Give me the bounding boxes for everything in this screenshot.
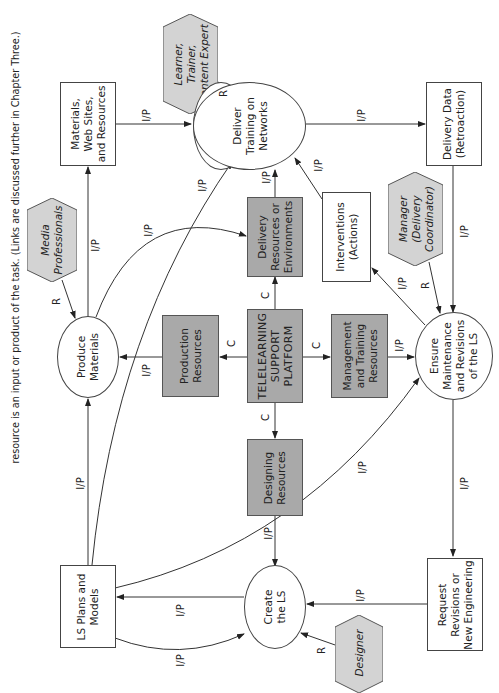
node-text: LS Plans and bbox=[75, 573, 88, 640]
interventions-box: Interventions(Actions) bbox=[322, 192, 371, 282]
link-label-ip: I/P bbox=[175, 654, 186, 666]
telelearning-support-platform-box: TELELEARNINGSUPPORTPLATFORM bbox=[247, 309, 303, 403]
node-text: Web Sites, bbox=[82, 86, 95, 163]
link-label-r: R bbox=[218, 90, 229, 97]
production-resources-box: ProductionResources bbox=[162, 315, 219, 397]
management-training-resources-box: Managementand TrainingResources bbox=[331, 314, 388, 398]
node-text: Models bbox=[88, 573, 101, 640]
delivery-resources-box: DeliveryResources orEnvironments bbox=[247, 197, 303, 277]
link-label-c: C bbox=[260, 292, 271, 299]
link-label-ip: I/P bbox=[356, 109, 367, 121]
designing-resources-box: DesigningResources bbox=[247, 439, 303, 516]
node-text: Resources or bbox=[269, 201, 282, 274]
link-label-ip: I/P bbox=[459, 477, 470, 489]
node-text: Environments bbox=[282, 201, 295, 274]
link-label-ip: I/P bbox=[141, 364, 152, 376]
link-label-ip: I/P bbox=[90, 239, 101, 251]
designer-label: Designer bbox=[335, 615, 383, 691]
node-text: (Retroaction) bbox=[454, 88, 467, 160]
produce-materials-process: ProduceMaterials bbox=[57, 316, 119, 398]
node-text: the LS bbox=[275, 590, 288, 625]
node-text: Deliver bbox=[230, 97, 243, 155]
node-text: Designer bbox=[353, 629, 366, 676]
link-label-ip: I/P bbox=[75, 477, 86, 489]
link-label-ip: I/P bbox=[459, 225, 470, 237]
node-text: (Delivery bbox=[409, 186, 422, 252]
node-text: Designing bbox=[262, 451, 275, 505]
node-text: Create bbox=[262, 590, 275, 625]
node-text: Produce bbox=[75, 333, 88, 381]
media-professionals-label: MediaProfessionals bbox=[27, 198, 77, 282]
node-text: Revisions or bbox=[449, 560, 462, 649]
node-text: Coordinator) bbox=[422, 186, 435, 252]
node-text: Request bbox=[436, 560, 449, 649]
link-label-ip: I/P bbox=[355, 589, 366, 601]
node-text: Training on bbox=[243, 97, 256, 155]
link-label-c: C bbox=[260, 414, 271, 421]
node-text: and Revisions bbox=[454, 320, 467, 392]
link-label-ip: I/P bbox=[394, 339, 405, 351]
node-text: Resources bbox=[366, 321, 379, 390]
node-text: Materials, bbox=[69, 86, 82, 163]
figure-caption: resource is an input or product of the t… bbox=[10, 4, 21, 464]
create-ls-process: Createthe LS bbox=[244, 565, 306, 649]
deliver-training-process-shape: DeliverTraining onNetworks bbox=[193, 82, 306, 170]
link-label-r: R bbox=[51, 298, 62, 305]
link-label-c: C bbox=[226, 340, 237, 347]
node-text: Production bbox=[178, 328, 191, 384]
link-label-ip: I/P bbox=[263, 527, 274, 539]
node-text: Resources bbox=[275, 451, 288, 505]
link-label-c: C bbox=[311, 342, 322, 349]
link-label-ip: I/P bbox=[261, 171, 272, 183]
node-text: Media bbox=[39, 206, 52, 275]
link-label-r: R bbox=[316, 647, 327, 654]
node-text: Professionals bbox=[52, 206, 65, 275]
link-label-ip: I/P bbox=[313, 159, 324, 171]
node-text: (Actions) bbox=[347, 202, 360, 272]
link-label-ip: I/P bbox=[143, 224, 154, 236]
node-text: Maintenance bbox=[441, 320, 454, 392]
link-label-ip: I/P bbox=[357, 461, 368, 473]
link-label-ip: I/P bbox=[141, 109, 152, 121]
materials-websites-resources-box: Materials,Web Sites,and Resources bbox=[60, 82, 116, 166]
node-text: and Resources bbox=[95, 86, 108, 163]
node-text: Manager bbox=[396, 186, 409, 252]
node-text: Interventions bbox=[334, 202, 347, 272]
request-revisions-box: RequestRevisions orNew Engineering bbox=[427, 558, 483, 651]
node-text: Materials bbox=[88, 333, 101, 381]
node-text: TELELEARNING bbox=[256, 313, 269, 400]
ls-plans-models-box: LS Plans andModels bbox=[60, 565, 116, 648]
node-text: of the LS bbox=[467, 320, 480, 392]
link-label-r: R bbox=[420, 282, 431, 289]
node-text: SUPPORT bbox=[269, 313, 282, 400]
node-text: Management bbox=[340, 321, 353, 390]
link-label-ip: I/P bbox=[397, 277, 408, 289]
node-text: Delivery bbox=[256, 201, 269, 274]
node-text: Resources bbox=[191, 328, 204, 384]
node-text: Learner, bbox=[171, 24, 184, 104]
delivery-data-box: Delivery Data(Retroaction) bbox=[426, 82, 482, 166]
manager-label: Manager(DeliveryCoordinator) bbox=[388, 172, 443, 266]
node-text: Trainer, bbox=[184, 24, 197, 104]
node-text: Networks bbox=[256, 97, 269, 155]
link-label-ip: I/P bbox=[175, 604, 186, 616]
node-text: Delivery Data bbox=[441, 88, 454, 160]
ensure-maintenance-process: EnsureMaintenanceand Revisionsof the LS bbox=[415, 312, 493, 400]
node-text: and Training bbox=[353, 321, 366, 390]
link-label-ip: I/P bbox=[197, 179, 208, 191]
node-text: Ensure bbox=[428, 320, 441, 392]
node-text: PLATFORM bbox=[282, 313, 295, 400]
node-text: New Engineering bbox=[462, 560, 475, 649]
